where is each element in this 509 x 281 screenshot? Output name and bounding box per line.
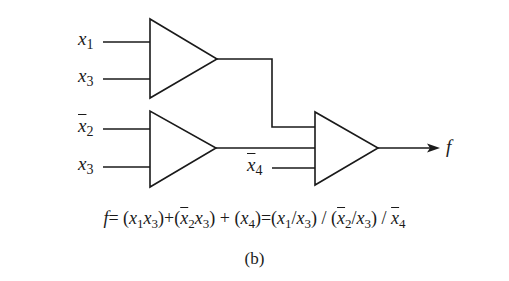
label-x1: x1 [78,29,93,52]
label-output-f: f [446,137,451,156]
gate-1 [150,19,217,98]
gate-2 [150,111,216,187]
boolean-equation: f= (x1x3)+(x2x3) + (x4)=(x1/x3) / (x2/x3… [0,208,509,232]
label-x3-gate2: x3 [78,154,93,177]
wire-gate1-to-gate3 [217,59,315,127]
label-x3-gate1: x3 [78,66,93,89]
gate-3 [315,112,378,185]
label-x4-bar: x4 [247,155,262,178]
label-x2-bar: x2 [78,116,93,139]
figure-caption: (b) [0,249,509,269]
logic-diagram [0,0,509,281]
